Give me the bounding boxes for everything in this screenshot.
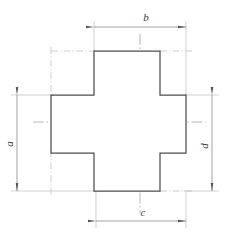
dimension-label-c: c (141, 206, 146, 218)
drawing-canvas: b c a d (0, 0, 243, 241)
technical-drawing-container: b c a d (0, 0, 243, 241)
dimension-label-d: d (198, 143, 210, 149)
dimension-label-b: b (143, 11, 149, 23)
dimension-label-a: a (3, 141, 15, 147)
cross-profile-outline (51, 51, 186, 191)
